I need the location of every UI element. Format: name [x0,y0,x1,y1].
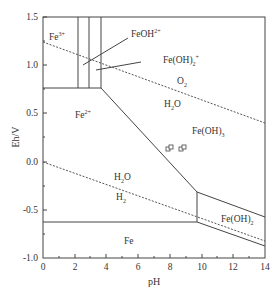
x-tick-label: 14 [260,262,270,272]
label-h2o-lower: H2O [114,172,131,184]
x-axis-title: pH [148,276,160,287]
water-lines [43,42,265,241]
x-tick-label: 2 [73,262,78,272]
label-feoh3: Fe(OH)3 [192,126,225,138]
y-axis-title: Eh/V [10,126,21,148]
data-markers [166,145,186,151]
feoh2-leader-line [96,62,141,70]
label-h2o-upper: H2O [164,99,181,111]
h2o-h2-line [43,162,265,241]
y-tick-label: 1.5 [26,12,38,22]
x-tick-labels: 0 2 4 6 8 10 12 14 [41,262,270,272]
feoh-leader-line [83,38,128,65]
y-tick-label: -1.0 [23,253,38,263]
label-fe3: Fe3+ [49,31,66,42]
y-tick-label: -0.5 [23,205,38,215]
label-feoh2-ion: Fe(OH)2+ [163,54,200,67]
label-o2: O2 [177,76,187,88]
pourbaix-diagram: 1.5 1.0 0.5 0.0 -0.5 -1.0 0 2 4 6 8 10 1… [0,0,276,293]
x-tick-label: 6 [136,262,141,272]
y-tick-label: 0.0 [26,157,38,167]
x-tick-label: 0 [41,262,46,272]
x-tick-label: 8 [168,262,173,272]
x-axis-ticks [59,254,249,258]
y-tick-label: 0.5 [26,108,38,118]
label-feoh2-solid: Fe(OH)2 [221,214,254,226]
label-h2: H2 [116,192,126,204]
y-tick-label: 1.0 [26,60,38,70]
y-tick-labels: 1.5 1.0 0.5 0.0 -0.5 -1.0 [23,12,38,263]
y-axis-ticks [43,17,47,234]
x-tick-label: 12 [228,262,238,272]
phase-boundaries [43,17,265,246]
label-fe: Fe [124,236,134,246]
x-tick-label: 10 [197,262,207,272]
x-tick-label: 4 [104,262,109,272]
label-feoh2plus: FeOH2+ [131,28,161,39]
region-labels: Fe3+ FeOH2+ Fe(OH)2+ Fe2+ O2 H2O Fe(OH)3… [49,28,254,246]
label-fe2: Fe2+ [75,109,92,120]
fe-feoh2-boundary [197,222,265,246]
